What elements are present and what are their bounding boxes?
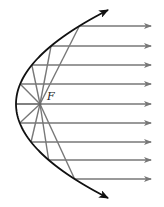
focus-label: F xyxy=(46,90,55,103)
reflected-rays xyxy=(16,26,151,179)
parabola-curve-upper xyxy=(16,10,108,104)
incident-ray xyxy=(20,104,40,123)
focus-point xyxy=(39,103,42,106)
parabola-diagram: F xyxy=(0,0,164,207)
